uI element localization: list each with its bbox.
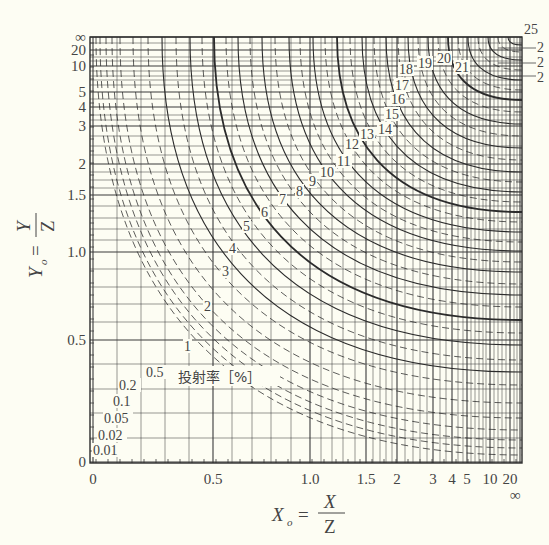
- y-axis-ticks: ∞201054321.51.00.50: [67, 29, 86, 470]
- contour-label: 16: [391, 92, 405, 107]
- x-axis-title-den: Z: [324, 516, 336, 537]
- right-label-2a: 2: [537, 40, 544, 55]
- right-edge-labels: 25 2 2 2: [498, 22, 544, 85]
- y-tick-label: 1.0: [67, 244, 86, 260]
- contour-label: 18: [399, 62, 413, 77]
- contour-label: 0.02: [98, 428, 123, 443]
- contour-label: 0.05: [104, 411, 129, 426]
- y-tick-label: 1.5: [67, 187, 86, 203]
- contour-label: 14: [378, 122, 392, 137]
- x-tick-label: 5: [463, 471, 471, 487]
- x-tick-label: 0.5: [204, 471, 223, 487]
- x-axis-title-num: X: [323, 491, 337, 512]
- contour-label: 3: [222, 264, 229, 279]
- y-axis-title-num: Y: [13, 219, 34, 232]
- y-tick-label: 20: [71, 42, 86, 58]
- x-axis-infinity: ∞: [510, 487, 521, 503]
- x-axis-title-eq: =: [298, 504, 309, 525]
- y-axis-title: Y o = Y Z: [13, 213, 58, 278]
- contour-label: 17: [395, 78, 409, 93]
- y-tick-label: 3: [79, 118, 87, 134]
- x-tick-label: 3: [429, 471, 437, 487]
- x-axis-ticks: 00.51.01.523451020: [89, 471, 517, 487]
- contour-label: 6: [261, 205, 268, 220]
- x-axis-title-sub: o: [287, 516, 293, 528]
- unit-label: 投射率［%］: [178, 369, 261, 385]
- x-tick-label: 0: [89, 471, 97, 487]
- y-tick-label: 0.5: [67, 332, 86, 348]
- contour-label: 4: [229, 241, 236, 256]
- contour-label: 0.1: [113, 394, 131, 409]
- y-axis-title-main: Y: [25, 265, 46, 278]
- contour-label: 7: [279, 192, 286, 207]
- x-tick-label: 1.0: [301, 471, 320, 487]
- contour-label: 2: [204, 299, 211, 314]
- y-axis-title-den: Z: [37, 220, 58, 232]
- contour-label: 10: [320, 165, 334, 180]
- contour-label: 5: [243, 219, 250, 234]
- contour-label: 13: [360, 127, 374, 142]
- x-axis-title-main: X: [271, 504, 285, 525]
- y-axis-title-eq: =: [25, 245, 46, 256]
- contour-label: 12: [345, 137, 359, 152]
- contour-label: 9: [309, 174, 316, 189]
- contour-label: 11: [337, 154, 350, 169]
- x-axis-title: X o = X Z: [271, 491, 345, 537]
- x-tick-label: 4: [448, 471, 456, 487]
- x-tick-label: 10: [483, 471, 498, 487]
- right-label-2c: 2: [537, 70, 544, 85]
- contour-label: 0.01: [93, 443, 118, 458]
- contour-label: 0.2: [119, 378, 137, 393]
- x-tick-label: 1.5: [357, 471, 376, 487]
- contour-label: 21: [455, 60, 469, 75]
- right-label-25: 25: [524, 22, 538, 37]
- y-tick-label: 0: [79, 454, 87, 470]
- contour-label: 1: [184, 339, 191, 354]
- x-tick-label: 20: [503, 471, 518, 487]
- y-tick-label: 4: [79, 99, 87, 115]
- contour-label: 20: [437, 51, 451, 66]
- y-tick-label: 2: [79, 156, 87, 172]
- projection-ratio-chart: 00.51.01.523451020 ∞201054321.51.00.50 0…: [0, 0, 549, 545]
- y-tick-label: 10: [71, 58, 86, 74]
- contour-label: 0.5: [146, 365, 164, 380]
- y-tick-label: 5: [79, 84, 87, 100]
- contour-label: 8: [296, 184, 303, 199]
- y-axis-title-sub: o: [37, 259, 49, 265]
- x-tick-label: 2: [393, 471, 401, 487]
- contour-label: 15: [385, 107, 399, 122]
- plot-frame: [90, 37, 522, 463]
- contour-label: 19: [418, 56, 432, 71]
- grid-lines: [90, 37, 522, 463]
- right-label-2b: 2: [537, 55, 544, 70]
